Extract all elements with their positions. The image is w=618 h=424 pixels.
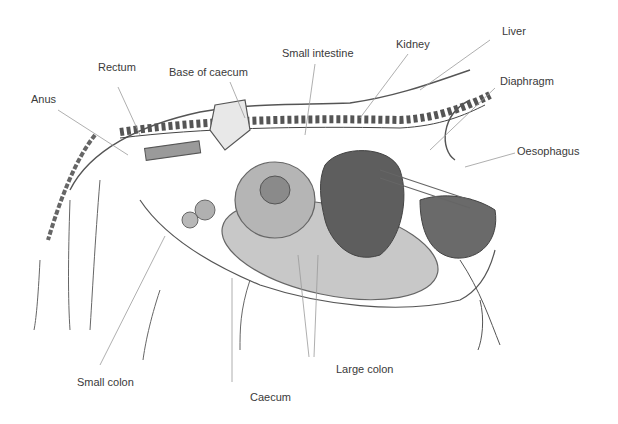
label-small-intestine: Small intestine <box>282 47 354 60</box>
small-colon-organ <box>195 200 215 220</box>
label-oesophagus: Oesophagus <box>517 145 579 158</box>
rectum-organ <box>145 141 201 161</box>
leader-anus <box>58 110 128 155</box>
leader-small-colon <box>100 236 165 365</box>
label-diaphragm: Diaphragm <box>500 75 554 88</box>
body-lines <box>143 280 250 360</box>
anatomy-diagram: Anus Rectum Base of caecum Small intesti… <box>0 0 618 424</box>
pelvis-bone <box>210 100 250 150</box>
label-small-colon: Small colon <box>77 376 134 389</box>
label-base-of-caecum: Base of caecum <box>169 66 248 79</box>
leader-small-intestine <box>305 64 315 135</box>
label-anus: Anus <box>31 93 56 106</box>
label-caecum: Caecum <box>250 391 291 404</box>
label-kidney: Kidney <box>396 38 430 51</box>
horse-anatomy-illustration <box>0 0 618 424</box>
hind-leg-outline <box>34 180 100 330</box>
leader-kidney <box>360 54 408 118</box>
label-liver: Liver <box>502 25 526 38</box>
leader-diaphragm <box>430 88 495 150</box>
label-large-colon: Large colon <box>336 363 394 376</box>
spine <box>120 95 490 132</box>
leader-oesophagus <box>465 153 515 167</box>
small-intestine-loop <box>260 176 290 204</box>
label-rectum: Rectum <box>98 61 136 74</box>
stomach-organ <box>420 196 496 258</box>
front-leg-outline <box>460 260 500 350</box>
small-colon-loop <box>182 212 198 228</box>
leader-liver <box>420 40 490 90</box>
